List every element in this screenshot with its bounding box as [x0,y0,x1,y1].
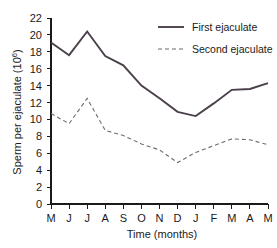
y-tick-label: 20 [30,29,42,41]
y-tick-label: 4 [36,164,42,176]
x-tick-label: A [246,212,254,224]
y-tick-label: 16 [30,63,42,75]
x-axis-tick-marks [51,204,268,209]
x-tick-label: A [102,212,110,224]
x-axis-title: Time (months) [127,228,198,240]
x-tick-label: J [193,212,199,224]
legend-label-2: Second ejaculate [192,43,273,55]
y-axis-title-group: Sperm per ejaculate (106) [10,49,23,174]
x-tick-label: J [84,212,90,224]
y-tick-label: 14 [30,80,42,92]
x-tick-label: J [66,212,72,224]
y-tick-label: 22 [30,12,42,24]
y-axis-tick-marks [47,18,51,204]
y-tick-label: 8 [36,130,42,142]
chart-legend: First ejaculateSecond ejaculate [158,21,273,55]
chart-container: Sperm per ejaculate (106) 02468101214161… [0,0,277,248]
x-tick-label: F [210,212,217,224]
x-tick-label: D [174,212,182,224]
y-axis-title: Sperm per ejaculate (106) [10,49,23,174]
x-axis-tick-labels: MJJASONDJFMAM [46,212,272,224]
y-tick-label: 2 [36,181,42,193]
y-tick-label: 18 [30,46,42,58]
y-tick-label: 6 [36,147,42,159]
y-tick-label: 10 [30,113,42,125]
series-line-2 [51,98,268,162]
x-tick-label: N [156,212,164,224]
line-chart: Sperm per ejaculate (106) 02468101214161… [0,0,277,248]
x-tick-label: M [263,212,272,224]
x-tick-label: S [120,212,127,224]
x-tick-label: M [46,212,55,224]
legend-label-1: First ejaculate [192,21,258,33]
y-tick-label: 0 [36,198,42,210]
y-axis-tick-labels: 0246810121416182022 [30,12,42,210]
y-tick-label: 12 [30,97,42,109]
x-tick-label: O [137,212,146,224]
x-tick-label: M [227,212,236,224]
